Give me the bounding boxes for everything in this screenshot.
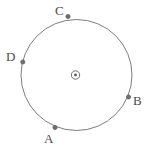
- point-marker-a[interactable]: [53, 125, 57, 129]
- point-marker-b[interactable]: [126, 95, 130, 99]
- point-label-b: B: [133, 94, 142, 107]
- figure-canvas: [0, 0, 147, 150]
- center-mark-inner-dot-icon: [74, 74, 77, 77]
- geometry-figure: A B C D: [0, 0, 147, 150]
- point-marker-c[interactable]: [66, 14, 70, 18]
- point-label-a: A: [44, 132, 53, 145]
- point-marker-d[interactable]: [21, 60, 25, 64]
- circle-center-mark: [71, 71, 79, 79]
- point-label-d: D: [6, 50, 15, 63]
- point-label-c: C: [55, 4, 64, 17]
